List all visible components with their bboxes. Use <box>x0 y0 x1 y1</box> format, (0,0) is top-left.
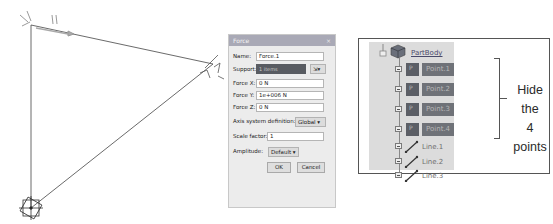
edge-diagonal <box>31 64 213 208</box>
point-label: Point.2 <box>422 83 454 96</box>
line-label: Line.1 <box>422 141 443 153</box>
force-z-field[interactable]: 0 N <box>256 103 324 112</box>
force-y-field[interactable]: 1e+006 N <box>256 91 324 100</box>
axis-system-label: Axis system definition: <box>233 117 296 126</box>
axis-system-value: Global <box>298 119 316 125</box>
cancel-button[interactable]: Cancel <box>297 162 325 173</box>
expand-icon[interactable] <box>395 66 402 72</box>
point-label: Point.1 <box>422 63 454 76</box>
name-label: Name: <box>233 52 251 61</box>
amplitude-value: Default <box>271 149 291 155</box>
support-field[interactable]: 1 items <box>256 64 306 74</box>
scale-factor-field[interactable]: 1 <box>267 132 324 141</box>
name-field[interactable]: Force.1 <box>256 52 324 61</box>
line-label: Line.3 <box>422 170 443 182</box>
selection-mode-icon: ⇲▾ <box>313 66 320 72</box>
expand-icon[interactable] <box>395 106 402 112</box>
line-icon <box>404 140 420 153</box>
dialog-title-bar[interactable]: Force × <box>229 35 335 46</box>
line-label: Line.2 <box>422 156 443 168</box>
scale-factor-label: Scale factor: <box>233 132 267 141</box>
annotation-line-1: Hide the <box>509 81 551 119</box>
edge-top <box>31 25 213 64</box>
dialog-title: Force <box>233 37 249 44</box>
chevron-down-icon: ▾ <box>317 119 320 125</box>
point-icon <box>406 103 419 116</box>
axis-system-dropdown[interactable]: Global ▾ <box>295 117 326 127</box>
bracket-pointer <box>500 98 507 99</box>
partbody-node[interactable]: PartBody <box>411 49 443 57</box>
point-icon <box>406 123 419 136</box>
point-icon <box>406 63 419 76</box>
line-icon <box>404 155 420 168</box>
force-z-label: Force Z: <box>233 103 255 112</box>
annotation-line-2: 4 points <box>509 119 551 157</box>
line-icon <box>404 169 420 182</box>
partbody-icon <box>379 44 409 60</box>
annotation-text: Hide the 4 points <box>509 81 551 157</box>
force-x-field[interactable]: 0 N <box>256 79 324 88</box>
point-label: Point.4 <box>422 123 454 136</box>
chevron-down-icon: ▾ <box>293 149 296 155</box>
expand-icon[interactable] <box>395 158 402 164</box>
point-icon <box>406 83 419 96</box>
force-dialog: Force × Name: Force.1 Support: 1 items ⇲… <box>228 34 336 208</box>
expand-icon[interactable] <box>395 172 402 178</box>
close-icon[interactable]: × <box>326 35 331 46</box>
corner-restraint-icon <box>200 55 224 79</box>
ok-button[interactable]: OK <box>267 162 291 173</box>
spec-tree: PartBody Point.1 Point.2 Point.3 Point.4 <box>369 42 454 170</box>
force-x-label: Force X: <box>233 79 255 88</box>
expand-icon[interactable] <box>395 143 402 149</box>
amplitude-label: Amplitude: <box>233 147 263 156</box>
point-label: Point.3 <box>422 103 454 116</box>
force-y-label: Force Y: <box>233 91 254 100</box>
wireframe-canvas[interactable] <box>0 0 230 224</box>
support-select-button[interactable]: ⇲▾ <box>310 64 326 74</box>
axis-system-icon <box>19 196 43 220</box>
amplitude-dropdown[interactable]: Default ▾ <box>268 147 299 157</box>
expand-icon[interactable] <box>395 126 402 132</box>
tree-connector <box>399 58 400 174</box>
expand-icon[interactable] <box>395 86 402 92</box>
spec-tree-panel: PartBody Point.1 Point.2 Point.3 Point.4 <box>358 38 550 174</box>
support-label: Support: <box>233 65 257 74</box>
